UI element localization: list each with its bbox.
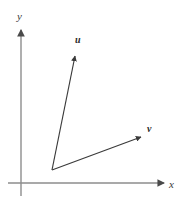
- vector-diagram-figure: y x u v: [0, 0, 182, 202]
- vector-u-label: u: [75, 35, 81, 45]
- vector-u-arrow: [52, 56, 75, 170]
- vector-v-arrow: [52, 137, 141, 170]
- vector-v-label: v: [147, 124, 151, 134]
- y-axis-label: y: [17, 11, 22, 22]
- vector-diagram-canvas: [0, 0, 182, 202]
- x-axis-label: x: [169, 179, 174, 190]
